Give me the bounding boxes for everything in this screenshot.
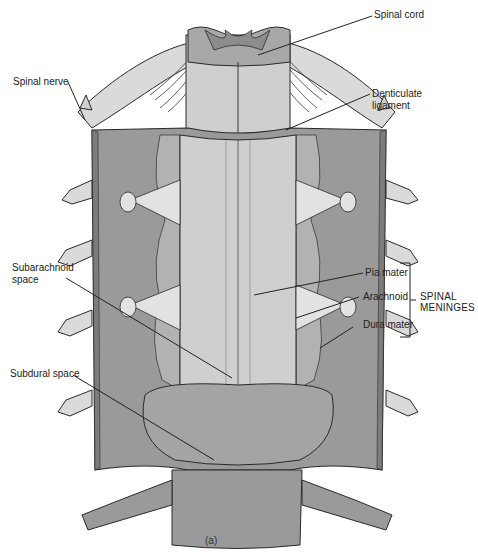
spinal-cord-body <box>180 135 296 400</box>
label-arachnoid: Arachnoid <box>363 291 408 303</box>
leader-spinal-nerve <box>68 82 85 120</box>
label-pia-mater: Pia mater <box>365 267 408 279</box>
label-spinal-nerve: Spinal nerve <box>13 76 69 88</box>
lower-dura-tube <box>82 470 392 549</box>
label-subarachnoid-space-1: Subarachnoid <box>12 262 74 274</box>
figure-caption: (a) <box>205 535 217 546</box>
label-subdural-space: Subdural space <box>10 368 80 380</box>
label-denticulate-ligament-1: Denticulate <box>372 88 422 100</box>
label-spinal-cord: Spinal cord <box>374 9 424 21</box>
label-denticulate-ligament-2: ligament <box>372 100 410 112</box>
cord-cross-section <box>188 27 290 66</box>
spinal-cord-top <box>186 27 290 135</box>
label-spinal-meninges-2: MENINGES <box>420 302 475 314</box>
label-dura-mater: Dura mater <box>363 319 413 331</box>
label-subarachnoid-space-2: space <box>12 274 39 286</box>
arachnoid-peeled-lower <box>143 384 333 465</box>
